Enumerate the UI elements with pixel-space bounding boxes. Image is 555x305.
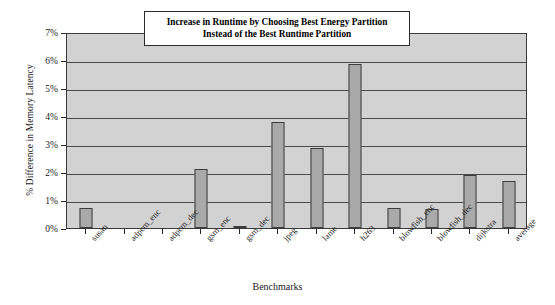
y-tick-label: 3% [18, 140, 58, 150]
bar[interactable] [310, 148, 323, 228]
x-tick-mark [85, 229, 86, 234]
bar[interactable] [387, 208, 400, 228]
x-tick-mark [162, 229, 163, 234]
y-tick-label: 7% [18, 28, 58, 38]
bar-slot [182, 34, 220, 228]
y-tick-label: 5% [18, 84, 58, 94]
bar-slot [298, 34, 336, 228]
bar-slot [259, 34, 297, 228]
x-tick-mark [124, 229, 125, 234]
bar[interactable] [502, 181, 515, 228]
bar[interactable] [272, 122, 285, 228]
y-tick-label: 0% [18, 224, 58, 234]
x-tick-mark [469, 229, 470, 234]
bar-slot [413, 34, 451, 228]
x-axis-title: Benchmarks [0, 281, 555, 292]
x-tick-mark [200, 229, 201, 234]
bar-slot [490, 34, 528, 228]
x-tick-mark [239, 229, 240, 234]
bar-slot [67, 34, 105, 228]
bar[interactable] [195, 169, 208, 228]
bar[interactable] [233, 226, 246, 228]
bar-slot [105, 34, 143, 228]
bar[interactable] [80, 208, 93, 228]
bar-slot [144, 34, 182, 228]
x-tick-mark [508, 229, 509, 234]
plot-area [66, 33, 527, 229]
chart-title-line-2: Instead of the Best Runtime Partition [151, 28, 403, 40]
bar-slot [374, 34, 412, 228]
y-tick-label: 6% [18, 56, 58, 66]
y-tick-label: 2% [18, 168, 58, 178]
bar-slot [336, 34, 374, 228]
bar-chart-figure: % Difference in Memory Latency 0%1%2%3%4… [0, 0, 555, 305]
chart-title-line-1: Increase in Runtime by Choosing Best Ene… [151, 16, 403, 28]
x-tick-mark [277, 229, 278, 234]
bar-series [67, 34, 526, 228]
chart-title-box: Increase in Runtime by Choosing Best Ene… [144, 11, 410, 46]
bar-slot [451, 34, 489, 228]
y-tick-label: 4% [18, 112, 58, 122]
bar[interactable] [349, 64, 362, 228]
x-tick-mark [354, 229, 355, 234]
x-tick-mark [431, 229, 432, 234]
x-tick-mark [316, 229, 317, 234]
y-tick-label: 1% [18, 196, 58, 206]
bar-slot [221, 34, 259, 228]
x-tick-mark [393, 229, 394, 234]
y-tick-mark [61, 229, 66, 230]
